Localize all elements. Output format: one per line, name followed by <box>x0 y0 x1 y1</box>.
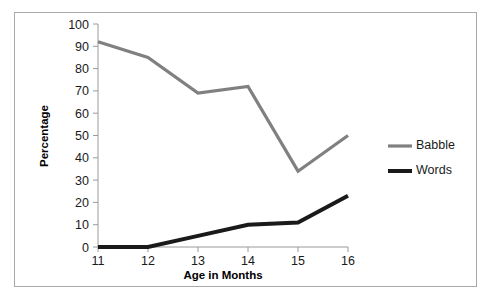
y-tick-label: 10 <box>75 218 89 232</box>
x-tick-labels: 111213141516 <box>92 254 355 268</box>
y-tick-labels: 0102030405060708090100 <box>68 18 89 255</box>
data-series-group <box>98 42 348 247</box>
x-tick-label: 14 <box>241 254 255 268</box>
x-tick-label: 13 <box>191 254 205 268</box>
y-tick-label: 70 <box>75 84 89 98</box>
x-tick-label: 11 <box>92 254 105 268</box>
x-tick-label: 16 <box>341 254 355 268</box>
y-axis-title: Percentage <box>38 105 50 167</box>
series-line-words <box>98 196 348 247</box>
x-axis: 111213141516 <box>92 247 355 268</box>
y-tick-label: 100 <box>68 18 89 32</box>
x-tick-label: 12 <box>141 254 155 268</box>
x-tick-label: 15 <box>291 254 305 268</box>
y-tick-label: 20 <box>75 196 89 210</box>
y-tick-label: 0 <box>82 241 89 255</box>
y-tick-label: 80 <box>75 62 89 76</box>
series-line-babble <box>98 42 348 171</box>
y-tick-marks <box>93 24 98 247</box>
legend-label-babble: Babble <box>416 138 455 152</box>
y-axis: 0102030405060708090100 <box>68 18 98 255</box>
y-tick-label: 60 <box>75 107 89 121</box>
y-tick-label: 40 <box>75 151 89 165</box>
y-tick-label: 30 <box>75 174 89 188</box>
line-chart: 0102030405060708090100 111213141516 Perc… <box>0 0 490 300</box>
y-tick-label: 90 <box>75 40 89 54</box>
x-axis-title: Age in Months <box>183 269 262 281</box>
chart-legend: BabbleWords <box>388 138 455 177</box>
y-tick-label: 50 <box>75 129 89 143</box>
legend-label-words: Words <box>416 163 452 177</box>
